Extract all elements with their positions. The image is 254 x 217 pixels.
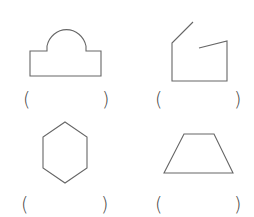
answer-open-paren-2: ( bbox=[155, 90, 162, 109]
answer-close-paren-1: ) bbox=[102, 90, 109, 109]
answer-open-paren-4: ( bbox=[155, 195, 162, 214]
answer-close-paren-2: ) bbox=[234, 90, 241, 109]
hexagon-shape bbox=[43, 122, 87, 183]
rectangle-semicircle-shape bbox=[30, 30, 101, 76]
answer-open-paren-3: ( bbox=[21, 195, 28, 214]
open-polygon-shape bbox=[172, 22, 227, 81]
answer-close-paren-4: ) bbox=[234, 195, 241, 214]
answer-open-paren-1: ( bbox=[23, 90, 30, 109]
shapes-canvas bbox=[0, 0, 254, 217]
answer-close-paren-3: ) bbox=[101, 195, 108, 214]
trapezoid-shape bbox=[164, 134, 233, 173]
